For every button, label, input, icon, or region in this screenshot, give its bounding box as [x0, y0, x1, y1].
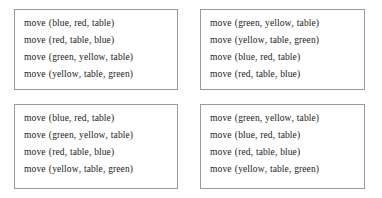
plan-line: move(red,table,blue) — [24, 32, 173, 49]
plan-box-top-right-lines: move(green,yellow,table)move(yellow,tabl… — [210, 15, 360, 83]
close-paren: ) — [297, 147, 300, 157]
plan-operator: move — [210, 66, 232, 83]
plan-argument: red — [238, 69, 250, 79]
arg-separator: , — [289, 164, 292, 174]
close-paren: ) — [130, 164, 133, 174]
plan-argument: blue — [52, 18, 69, 28]
close-paren: ) — [130, 52, 133, 62]
arg-separator: , — [65, 147, 68, 157]
close-paren: ) — [111, 147, 114, 157]
arg-separator: , — [265, 164, 268, 174]
plan-argument: yellow — [52, 69, 78, 79]
close-paren: ) — [297, 52, 300, 62]
plan-argument: table — [278, 130, 297, 140]
close-paren: ) — [297, 130, 300, 140]
plan-line: move(blue,red,table) — [210, 49, 360, 66]
plan-line: move(green,yellow,table) — [24, 49, 173, 66]
close-paren: ) — [316, 35, 319, 45]
arg-separator: , — [74, 130, 77, 140]
plan-argument: green — [294, 164, 316, 174]
arg-separator: , — [89, 147, 92, 157]
arg-separator: , — [260, 18, 263, 28]
plan-argument: table — [297, 18, 316, 28]
plan-argument: table — [70, 147, 89, 157]
arg-separator: , — [273, 52, 276, 62]
arg-separator: , — [89, 35, 92, 45]
plan-line: move(blue,red,table) — [24, 110, 173, 127]
plan-argument: yellow — [52, 164, 78, 174]
plan-operator: move — [210, 144, 232, 161]
plan-argument: red — [238, 147, 250, 157]
plan-argument: table — [111, 130, 130, 140]
plan-argument: yellow — [265, 18, 291, 28]
close-paren: ) — [111, 18, 114, 28]
plan-operator: move — [210, 15, 232, 32]
plan-operator: move — [24, 49, 46, 66]
plan-operator: move — [24, 127, 46, 144]
plan-argument: table — [270, 164, 289, 174]
plan-operator: move — [24, 32, 46, 49]
plan-operator: move — [210, 161, 232, 178]
plan-argument: blue — [280, 69, 297, 79]
plan-argument: blue — [280, 147, 297, 157]
arg-separator: , — [65, 35, 68, 45]
plan-argument: yellow — [238, 35, 264, 45]
plan-argument: table — [256, 69, 275, 79]
plan-argument: green — [108, 164, 130, 174]
plan-operator: move — [24, 15, 46, 32]
plan-argument: blue — [238, 130, 255, 140]
plan-operator: move — [210, 32, 232, 49]
arg-separator: , — [79, 69, 82, 79]
plan-argument: table — [84, 69, 103, 79]
plan-argument: table — [270, 35, 289, 45]
plan-argument: red — [74, 18, 86, 28]
close-paren: ) — [297, 69, 300, 79]
plan-box-bottom-left: move(blue,red,table)move(green,yellow,ta… — [14, 104, 178, 189]
plan-line: move(blue,red,table) — [24, 15, 173, 32]
arg-separator: , — [103, 164, 106, 174]
plan-line: move(blue,red,table) — [210, 127, 360, 144]
close-paren: ) — [316, 113, 319, 123]
arg-separator: , — [292, 18, 295, 28]
arg-separator: , — [106, 130, 109, 140]
plan-argument: blue — [238, 52, 255, 62]
plan-operator: move — [210, 110, 232, 127]
plan-operator: move — [210, 49, 232, 66]
plan-line: move(red,table,blue) — [24, 144, 173, 161]
plan-line: move(green,yellow,table) — [24, 127, 173, 144]
plan-box-top-right: move(green,yellow,table)move(yellow,tabl… — [200, 9, 365, 90]
plan-argument: green — [238, 113, 260, 123]
plan-operator: move — [24, 161, 46, 178]
arg-separator: , — [260, 113, 263, 123]
arg-separator: , — [292, 113, 295, 123]
plan-line: move(yellow,table,green) — [24, 161, 173, 178]
plan-argument: yellow — [79, 52, 105, 62]
plan-argument: red — [52, 35, 64, 45]
plan-box-top-left: move(blue,red,table)move(red,table,blue)… — [14, 9, 178, 90]
plan-argument: yellow — [265, 113, 291, 123]
plan-argument: table — [278, 52, 297, 62]
plan-argument: yellow — [238, 164, 264, 174]
plan-argument: red — [52, 147, 64, 157]
plan-argument: green — [52, 52, 74, 62]
plan-line: move(red,table,blue) — [210, 66, 360, 83]
plan-figure: move(blue,red,table)move(red,table,blue)… — [0, 0, 382, 198]
arg-separator: , — [251, 69, 254, 79]
arg-separator: , — [251, 147, 254, 157]
arg-separator: , — [273, 130, 276, 140]
plan-operator: move — [24, 144, 46, 161]
arg-separator: , — [69, 18, 72, 28]
plan-argument: table — [84, 164, 103, 174]
plan-line: move(yellow,table,green) — [24, 66, 173, 83]
plan-argument: table — [256, 147, 275, 157]
plan-box-bottom-right-lines: move(green,yellow,table)move(blue,red,ta… — [210, 110, 360, 178]
plan-argument: red — [74, 113, 86, 123]
arg-separator: , — [79, 164, 82, 174]
plan-argument: green — [52, 130, 74, 140]
plan-argument: green — [108, 69, 130, 79]
plan-argument: red — [260, 52, 272, 62]
plan-operator: move — [210, 127, 232, 144]
arg-separator: , — [87, 18, 90, 28]
close-paren: ) — [111, 113, 114, 123]
plan-box-top-left-lines: move(blue,red,table)move(red,table,blue)… — [24, 15, 173, 83]
